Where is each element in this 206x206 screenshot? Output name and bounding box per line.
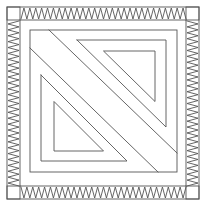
quilt-block-drawing: Quilt block line drawing <box>0 0 206 206</box>
corner-top-left <box>7 7 20 20</box>
left-band-zigzag <box>8 21 19 186</box>
right-band-zigzag <box>187 21 198 186</box>
top-band-zigzag <box>21 8 186 19</box>
upper-right-triangle <box>104 51 155 101</box>
corner-bottom-right <box>186 186 199 199</box>
bottom-band-zigzag <box>21 187 186 198</box>
zigzag-border-bands <box>8 8 198 198</box>
corner-top-right <box>186 7 199 20</box>
outer-border <box>7 7 199 199</box>
inner-block <box>30 30 177 172</box>
outer-square <box>7 7 199 199</box>
corner-bottom-left <box>7 186 20 199</box>
diagonal-upper <box>49 30 177 153</box>
upper-right-l-shape <box>77 40 166 127</box>
diagonal-lower <box>30 48 158 172</box>
lower-left-triangle <box>54 102 103 151</box>
corner-boxes <box>7 7 199 199</box>
